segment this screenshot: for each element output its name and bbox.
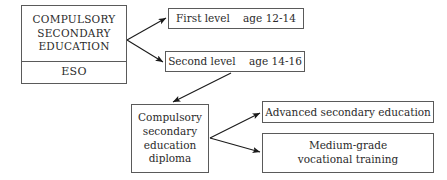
node-first-level[interactable]: First level age 12-14 xyxy=(168,8,304,29)
diploma-line-3: education xyxy=(144,139,197,153)
node-eso-title-section: COMPULSORY SECONDARY EDUCATION xyxy=(22,6,126,62)
edge-eso-to-first-level xyxy=(127,18,166,40)
vocational-line-1: Medium-grade xyxy=(309,139,387,153)
first-level-label: First level age 12-14 xyxy=(176,12,296,24)
node-second-level[interactable]: Second level age 14-16 xyxy=(165,51,305,72)
node-compulsory-secondary-education[interactable]: COMPULSORY SECONDARY EDUCATION ESO xyxy=(21,5,127,84)
node-advanced-secondary-education[interactable]: Advanced secondary education xyxy=(262,101,434,123)
node-eso-acronym-section: ESO xyxy=(22,62,126,83)
node-medium-grade-vocational-training[interactable]: Medium-grade vocational training xyxy=(262,133,434,173)
diploma-line-1: Compulsory xyxy=(138,111,202,125)
vocational-line-2: vocational training xyxy=(298,153,398,167)
flowchart-diagram: COMPULSORY SECONDARY EDUCATION ESO First… xyxy=(0,0,447,180)
eso-title-line-2: SECONDARY xyxy=(37,27,110,41)
diploma-line-2: secondary xyxy=(143,125,198,139)
eso-title-line-1: COMPULSORY xyxy=(33,13,116,27)
eso-acronym-label: ESO xyxy=(61,66,86,79)
edge-diploma-to-vocational xyxy=(210,138,260,152)
diploma-line-4: diploma xyxy=(149,152,192,166)
second-level-label: Second level age 14-16 xyxy=(168,55,302,67)
edge-diploma-to-advanced xyxy=(210,113,260,138)
node-compulsory-secondary-education-diploma[interactable]: Compulsory secondary education diploma xyxy=(131,104,209,173)
edge-eso-to-second-level xyxy=(127,40,163,62)
advanced-secondary-education-label: Advanced secondary education xyxy=(265,106,431,118)
edge-second-level-to-diploma xyxy=(173,73,231,102)
eso-title-line-3: EDUCATION xyxy=(38,40,109,54)
